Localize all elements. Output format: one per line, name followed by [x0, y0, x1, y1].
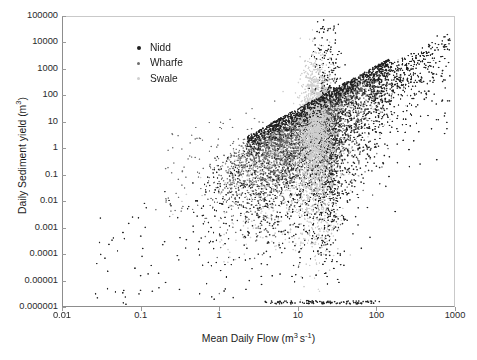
y-tick-mark — [62, 16, 66, 17]
x-tick-label: 10 — [293, 311, 303, 320]
y-axis-title: Daily Sediment yield (m3) — [17, 56, 28, 256]
legend-label-wharfe: Wharfe — [150, 58, 183, 68]
plot-area — [62, 16, 455, 307]
y-tick-label: 100000 — [27, 11, 58, 20]
legend-item-swale: Swale — [134, 71, 183, 87]
y-axis-title-text: Daily Sediment yield (m — [17, 105, 28, 214]
y-tick-label: 0.00001 — [24, 276, 58, 285]
y-tick-label: 0.01 — [40, 197, 58, 206]
y-axis-tick-labels: 1000001000010001001010.10.010.0010.00010… — [0, 0, 58, 360]
y-tick-label: 1000 — [37, 64, 58, 73]
legend-item-wharfe: Wharfe — [134, 56, 183, 72]
y-tick-label: 10000 — [32, 38, 58, 47]
scatter-chart-figure: 1000001000010001001010.10.010.0010.00010… — [0, 0, 477, 360]
x-axis-title: Mean Daily Flow (m3s-1) — [62, 333, 455, 344]
scatter-points-canvas — [63, 17, 454, 306]
y-tick-label: 100 — [42, 91, 58, 100]
y-tick-label: 0.1 — [45, 170, 58, 179]
legend-marker-wharfe — [134, 59, 143, 68]
y-tick-mark — [62, 281, 66, 282]
legend-item-nidd: Nidd — [134, 40, 183, 56]
y-tick-mark — [62, 122, 66, 123]
y-tick-label: 1 — [53, 144, 58, 153]
x-tick-label: 1 — [217, 311, 222, 320]
x-axis-title-exponent2: -1 — [305, 331, 312, 340]
x-tick-mark — [62, 307, 63, 311]
x-axis-title-close: ) — [312, 333, 315, 344]
x-axis-title-exponent: 3 — [294, 331, 298, 340]
x-tick-mark — [376, 307, 377, 311]
y-tick-mark — [62, 148, 66, 149]
y-tick-mark — [62, 175, 66, 176]
x-tick-mark — [141, 307, 142, 311]
y-tick-mark — [62, 42, 66, 43]
x-tick-mark — [298, 307, 299, 311]
x-tick-label: 1000 — [445, 311, 466, 320]
y-tick-mark — [62, 95, 66, 96]
y-tick-label: 0.0001 — [30, 249, 58, 258]
x-tick-label: 100 — [369, 311, 385, 320]
legend-marker-nidd — [134, 43, 143, 52]
y-tick-mark — [62, 254, 66, 255]
y-tick-label: 10 — [48, 117, 58, 126]
legend-marker-swale — [134, 74, 143, 83]
x-tick-label: 0.1 — [134, 311, 147, 320]
x-tick-label: 0.01 — [53, 311, 71, 320]
y-tick-mark — [62, 228, 66, 229]
legend-label-nidd: Nidd — [150, 43, 171, 53]
legend-label-swale: Swale — [150, 74, 178, 84]
chart-legend: Nidd Wharfe Swale — [134, 40, 183, 87]
y-tick-mark — [62, 201, 66, 202]
y-axis-title-close: ) — [17, 97, 28, 100]
x-tick-mark — [219, 307, 220, 311]
x-tick-mark — [455, 307, 456, 311]
y-tick-mark — [62, 69, 66, 70]
y-tick-label: 0.001 — [35, 223, 58, 232]
y-axis-title-exponent: 3 — [14, 101, 23, 105]
x-axis-title-text: Mean Daily Flow (m — [202, 333, 294, 344]
